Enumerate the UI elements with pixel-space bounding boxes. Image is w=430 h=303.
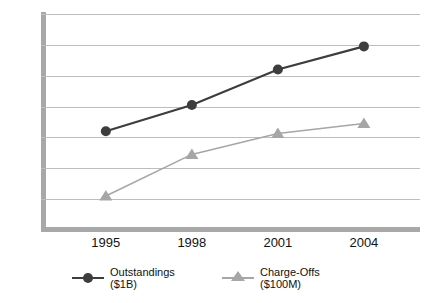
legend-label-line1: Charge-Offs bbox=[260, 266, 320, 278]
triangle-marker-icon bbox=[220, 265, 260, 295]
x-tick-label: 1995 bbox=[71, 236, 141, 250]
x-tick-label: 1998 bbox=[157, 236, 227, 250]
series-layer bbox=[46, 14, 420, 230]
legend-label-outstandings: Outstandings ($1B) bbox=[110, 265, 175, 290]
series-line bbox=[106, 46, 364, 131]
legend-label-line2: ($100M) bbox=[260, 278, 320, 290]
plot-area bbox=[46, 14, 420, 230]
chart-legend: Outstandings ($1B) Charge-Offs ($100M) bbox=[70, 265, 410, 299]
x-tick-label: 2001 bbox=[243, 236, 313, 250]
legend-item-chargeoffs[interactable]: Charge-Offs ($100M) bbox=[220, 265, 320, 295]
series-line bbox=[106, 124, 364, 197]
data-point-circle[interactable] bbox=[101, 126, 111, 136]
legend-label-chargeoffs: Charge-Offs ($100M) bbox=[260, 265, 320, 290]
data-point-circle[interactable] bbox=[187, 100, 197, 110]
circle-marker-icon bbox=[70, 265, 110, 295]
legend-label-line1: Outstandings bbox=[110, 266, 175, 278]
line-chart: 0100200300400500600700 1995199820012004 … bbox=[0, 0, 430, 303]
data-point-triangle[interactable] bbox=[99, 190, 112, 201]
x-tick-label: 2004 bbox=[329, 236, 399, 250]
legend-label-line2: ($1B) bbox=[110, 278, 175, 290]
data-point-circle[interactable] bbox=[359, 41, 369, 51]
legend-item-outstandings[interactable]: Outstandings ($1B) bbox=[70, 265, 175, 295]
data-point-circle[interactable] bbox=[273, 65, 283, 75]
data-point-triangle[interactable] bbox=[357, 118, 370, 128]
